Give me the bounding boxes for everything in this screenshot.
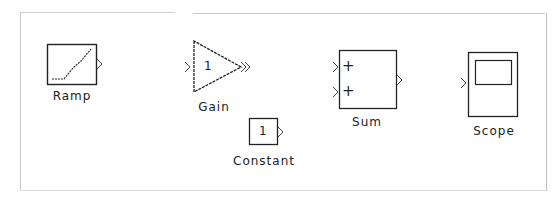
constant-block[interactable]: 1 (249, 118, 289, 148)
canvas-border-top-right (193, 13, 545, 14)
constant-label: Constant (229, 154, 299, 168)
gain-label: Gain (196, 100, 232, 114)
scope-block[interactable] (460, 52, 520, 118)
gain-block[interactable]: 1 (184, 40, 254, 94)
constant-value: 1 (259, 124, 267, 138)
canvas-border-top-left (20, 12, 175, 13)
sum-label: Sum (346, 115, 388, 129)
ramp-label: Ramp (49, 89, 95, 103)
ramp-block[interactable] (47, 44, 102, 86)
ramp-output-port[interactable] (97, 58, 107, 70)
ramp-icon (47, 44, 102, 86)
constant-output-port[interactable] (278, 126, 288, 138)
sum-sign-1: + (342, 57, 355, 75)
sum-output-port[interactable] (397, 74, 407, 86)
sum-block[interactable]: + + (332, 50, 406, 110)
gain-output-port[interactable] (240, 61, 254, 73)
scope-label: Scope (466, 124, 522, 138)
sum-sign-2: + (342, 82, 355, 100)
gain-value: 1 (204, 59, 212, 73)
scope-icon (468, 52, 520, 118)
